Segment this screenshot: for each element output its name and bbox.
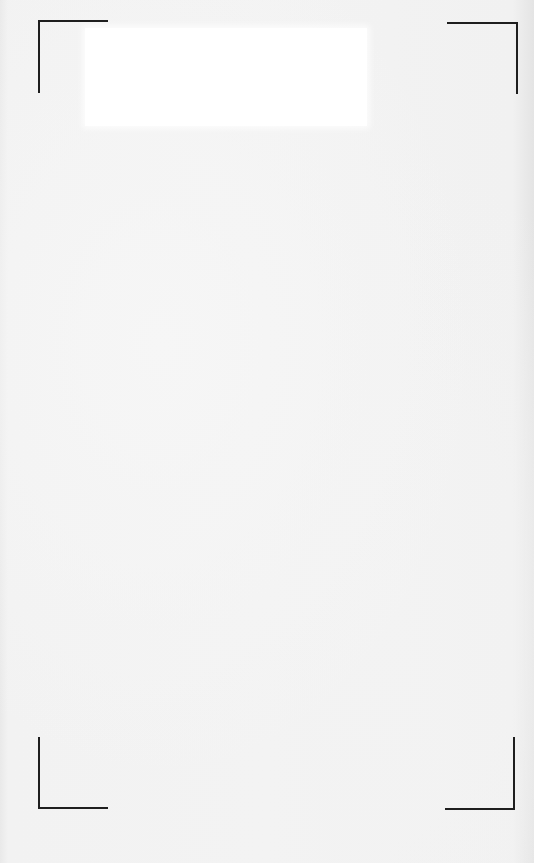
- crop-mark-line: [38, 20, 108, 22]
- blank-label-area: [85, 28, 367, 126]
- crop-mark-line: [513, 737, 515, 810]
- crop-mark-line: [516, 22, 518, 94]
- page-background: [0, 0, 534, 863]
- crop-mark-line: [447, 22, 518, 24]
- crop-mark-line: [38, 20, 40, 93]
- crop-mark-line: [445, 808, 515, 810]
- crop-mark-line: [38, 737, 40, 809]
- crop-mark-line: [38, 807, 108, 809]
